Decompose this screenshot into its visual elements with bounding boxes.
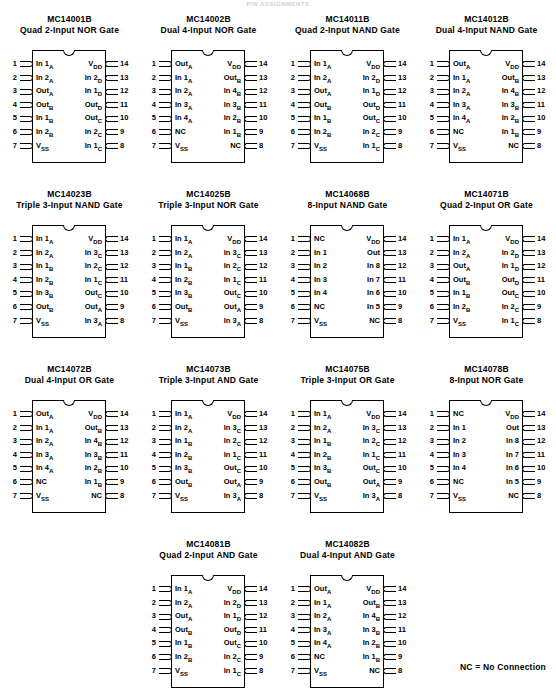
pin-number-left: 2 [283,598,295,608]
chip-title: MC14002BDual 4-Input NOR Gate [139,14,278,36]
pin1-notch-icon [202,575,214,581]
pin-lead-right [522,466,535,472]
chip-diagram-mc14011b: MC14011BQuad 2-Input NAND Gate1In 1A14VD… [278,14,417,170]
chip-diagram-mc14082b: MC14082BDual 4-Input AND Gate1OutA14VDD2… [278,539,417,695]
pin-label-left: In 1B [36,113,53,126]
pin-lead-left [298,586,311,592]
pin-number-left: 7 [144,666,156,676]
pin-label-left: In 3B [175,463,192,476]
pin-row: 7VSS8NC [439,140,533,154]
pin-lead-left [20,439,33,445]
pin-row: 7VSS8In 1C [300,140,394,154]
pin-label-right: OutC [502,288,519,301]
pin-number-right: 13 [398,598,412,608]
pin-lead-right [383,102,396,108]
pin-number-left: 6 [283,127,295,137]
pin-row: 5In 3B10OutC [161,287,255,301]
pin-lead-left [159,668,172,674]
pin-row: 3OutA12In 1D [439,260,533,274]
pin-label-left: In 4A [453,113,470,126]
pin1-notch-icon [63,50,75,56]
pin-lead-left [20,291,33,297]
pin-label-right: In 1B [224,127,241,140]
pin-label-right: VDD [366,584,380,597]
pin-row: 1In 1A14VDD [439,233,533,247]
pin-row: 3OutA12In 1D [22,85,116,99]
pin-number-left: 6 [283,477,295,487]
pin-lead-left [437,143,450,149]
pin-lead-left [437,102,450,108]
pin-number-right: 8 [537,141,551,151]
pin-lead-left [298,102,311,108]
pin-label-right: VDD [505,409,519,422]
pin-row: 3In 212In 8 [300,260,394,274]
pin-row: 1In 1A14VDD [22,58,116,72]
pin-lead-left [298,116,311,122]
pin-label-right: In 2B [224,113,241,126]
pin-label-right: VDD [227,409,241,422]
chip-title: MC14068B8-Input NAND Gate [278,189,417,211]
pin-lead-left [20,102,33,108]
pin-label-left: OutA [175,611,192,624]
pin-label-right: In 3C [85,248,102,261]
pin-number-left: 3 [283,261,295,271]
pin-number-left: 7 [5,141,17,151]
pin-label-right: OutC [224,288,241,301]
pin-label-right: In 2C [363,127,380,140]
pin-label-left: In 1A [36,234,53,247]
pin-label-right: In 2C [85,127,102,140]
pin-label-right: In 1D [502,261,519,274]
pin-number-right: 10 [120,288,134,298]
pin-row: 4OutB11OutD [300,99,394,113]
pin-lead-right [522,116,535,122]
pin-label-right: Out [367,248,380,258]
pin-number-right: 11 [398,275,412,285]
pin-number-right: 8 [537,491,551,501]
pin-label-left: In 2A [314,423,331,436]
pin-row: 5In 3B10OutC [300,462,394,476]
pin-number-left: 4 [144,100,156,110]
pin-label-left: OutA [314,86,331,99]
pin-number-right: 10 [398,638,412,648]
pin-label-right: In 6 [367,288,380,298]
pin-lead-left [20,479,33,485]
pin-label-right: VDD [88,409,102,422]
dip14-package: 1OutA14VDD2In 1A13OutB3In 2A12In 4B4In 3… [0,394,139,520]
pin-label-right: VDD [505,234,519,247]
pin-lead-left [298,493,311,499]
pin-label-right: NC [230,141,241,151]
pin-lead-left [20,250,33,256]
pin-row: 2In 1A13OutB [22,422,116,436]
pin-lead-left [20,318,33,324]
pin-lead-left [437,466,450,472]
chip-description: 8-Input NOR Gate [417,375,556,386]
pin-number-left: 2 [422,423,434,433]
pin-number-left: 6 [5,127,17,137]
pin-number-right: 9 [537,127,551,137]
pin-label-left: In 1 [453,423,466,433]
package-outline: 1In 1A14VDD2In 2A13In 2D3OutA12In 1D4Out… [161,575,255,688]
package-outline: 1In 1A14VDD2In 2A13In 2D3OutA12In 1D4Out… [439,225,533,338]
pin-lead-left [20,411,33,417]
pin-number-left: 2 [144,248,156,258]
chip-part-number: MC14068B [278,189,417,200]
chip-part-number: MC14073B [139,364,278,375]
pin-label-left: In 3A [175,100,192,113]
pin-rows: 1In 1A14VDD2In 2A13In 2D3OutA12In 1D4Out… [161,583,255,683]
pin-lead-right [383,641,396,647]
pin-label-right: OutA [85,302,102,315]
pin-label-left: In 2 [314,261,327,271]
pin-number-left: 7 [144,491,156,501]
pin-number-right: 14 [259,59,273,69]
chip-title: MC14072BDual 4-Input OR Gate [0,364,139,386]
pin-label-right: In 2C [224,261,241,274]
pin-number-right: 11 [259,450,273,460]
pin-label-right: OutC [85,113,102,126]
pin1-notch-icon [341,400,353,406]
pin-row: 3In 2A12In 4B [22,435,116,449]
pin-lead-right [383,116,396,122]
pin-lead-right [522,75,535,81]
pin-number-left: 3 [422,436,434,446]
pin-label-right: In 8 [506,436,519,446]
chip-row: MC14001BQuad 2-Input NOR Gate1In 1A14VDD… [0,14,556,189]
